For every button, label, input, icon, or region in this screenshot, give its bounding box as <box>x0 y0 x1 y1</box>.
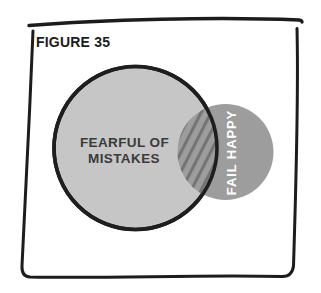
fearful-of-mistakes-label-line2: MISTAKES <box>88 151 160 166</box>
figure-35-panel: FIGURE 35 FEARFUL OF MISTAKES FAIL HAPPY <box>0 0 321 293</box>
venn-diagram: FIGURE 35 FEARFUL OF MISTAKES FAIL HAPPY <box>0 0 321 293</box>
fearful-of-mistakes-label-line1: FEARFUL OF <box>80 135 169 150</box>
fearful-of-mistakes-label: FEARFUL OF MISTAKES <box>80 135 169 166</box>
fail-happy-label: FAIL HAPPY <box>224 110 239 195</box>
panel-border-top <box>29 19 302 26</box>
figure-label: FIGURE 35 <box>36 34 110 50</box>
